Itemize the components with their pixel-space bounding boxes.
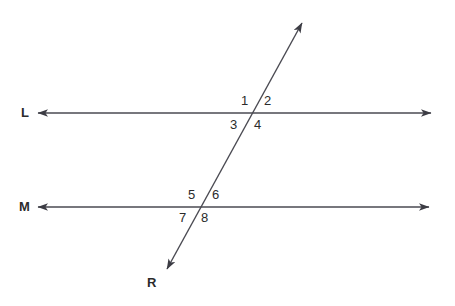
angle-label-3: 3	[230, 118, 237, 131]
angle-label-8: 8	[201, 211, 208, 224]
geometry-figure: L M R 1 2 3 4 5 6 7 8	[0, 0, 455, 306]
angle-label-7: 7	[179, 211, 186, 224]
line-label-R: R	[147, 276, 156, 289]
angle-label-6: 6	[212, 188, 219, 201]
angle-label-2: 2	[264, 94, 271, 107]
angle-label-5: 5	[188, 188, 195, 201]
transversal-R-stroke	[167, 23, 302, 269]
angle-label-1: 1	[241, 94, 248, 107]
angle-label-4: 4	[254, 118, 261, 131]
line-label-M: M	[19, 200, 30, 213]
line-label-L: L	[21, 106, 29, 119]
geometry-canvas	[0, 0, 455, 306]
